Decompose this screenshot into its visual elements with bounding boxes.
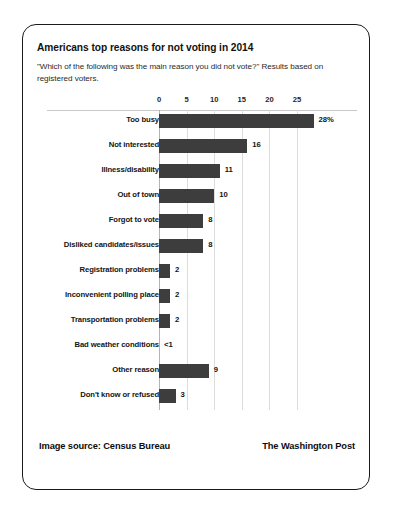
- bar-row: Out of town10: [23, 186, 371, 211]
- plot-area: 0510152025 Too busy28%Not interested16Il…: [23, 95, 371, 413]
- bar-row: Bad weather conditions<1: [23, 336, 371, 361]
- bar-row: Forgot to vote8: [23, 211, 371, 236]
- chart-card: Americans top reasons for not voting in …: [22, 24, 370, 490]
- bar: [159, 314, 170, 328]
- bar: [159, 189, 214, 203]
- x-tick-label: 20: [265, 95, 273, 104]
- bar-row: Inconvenient polling place2: [23, 286, 371, 311]
- x-axis-tick-labels: 0510152025: [23, 95, 371, 109]
- x-tick-label: 15: [238, 95, 246, 104]
- chart-title: Americans top reasons for not voting in …: [37, 42, 357, 54]
- category-label: Other reason: [35, 365, 159, 375]
- category-label: Not interested: [35, 140, 159, 150]
- bar-row: Transportation problems2: [23, 311, 371, 336]
- category-label: Out of town: [35, 190, 159, 200]
- bar-value-label: 28%: [319, 115, 334, 125]
- bar-value-label: 2: [175, 315, 179, 325]
- chart-card-inner: Americans top reasons for not voting in …: [23, 25, 369, 489]
- bar-row: Disliked candidates/issues8: [23, 236, 371, 261]
- bar: [159, 364, 209, 378]
- category-label: Don't know or refused: [35, 390, 159, 400]
- category-label: Registration problems: [35, 265, 159, 275]
- bar-value-label: <1: [164, 340, 173, 350]
- bar: [159, 114, 314, 128]
- category-label: Disliked candidates/issues: [35, 240, 159, 250]
- bar-rows: Too busy28%Not interested16Illness/disab…: [23, 111, 371, 411]
- category-label: Transportation problems: [35, 315, 159, 325]
- x-tick-label: 5: [184, 95, 188, 104]
- bar-row: Too busy28%: [23, 111, 371, 136]
- chart-footer: Image source: Census Bureau The Washingt…: [23, 441, 371, 457]
- bar: [159, 289, 170, 303]
- category-label: Inconvenient polling place: [35, 290, 159, 300]
- category-label: Too busy: [35, 115, 159, 125]
- bar-value-label: 16: [252, 140, 261, 150]
- bar: [159, 164, 220, 178]
- category-label: Bad weather conditions: [35, 340, 159, 350]
- bar-row: Other reason9: [23, 361, 371, 386]
- bar-row: Registration problems2: [23, 261, 371, 286]
- bar-value-label: 10: [219, 190, 228, 200]
- bar-value-label: 11: [225, 165, 233, 175]
- source-credit: Image source: Census Bureau: [39, 441, 170, 451]
- category-label: Illness/disability: [35, 165, 159, 175]
- chart-subtitle: "Which of the following was the main rea…: [37, 61, 349, 84]
- category-label: Forgot to vote: [35, 215, 159, 225]
- bar-value-label: 8: [208, 240, 212, 250]
- bar-value-label: 9: [214, 365, 218, 375]
- bar-value-label: 8: [208, 215, 212, 225]
- publisher-credit: The Washington Post: [262, 441, 355, 451]
- bar-row: Don't know or refused3: [23, 386, 371, 411]
- bar-value-label: 2: [175, 290, 179, 300]
- x-tick-label: 0: [157, 95, 161, 104]
- bar: [159, 139, 247, 153]
- bar-row: Illness/disability11: [23, 161, 371, 186]
- bar-value-label: 3: [181, 390, 185, 400]
- bar: [159, 389, 176, 403]
- bar: [159, 214, 203, 228]
- x-tick-label: 10: [210, 95, 218, 104]
- bar-value-label: 2: [175, 265, 179, 275]
- bar-row: Not interested16: [23, 136, 371, 161]
- bar: [159, 264, 170, 278]
- x-tick-label: 25: [293, 95, 301, 104]
- bar: [159, 239, 203, 253]
